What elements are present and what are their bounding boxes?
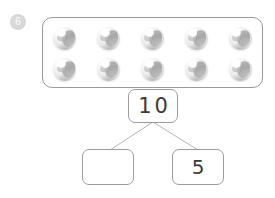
marble: [185, 58, 208, 81]
marble-highlight: [101, 29, 110, 37]
marble: [141, 58, 164, 81]
marble-highlight: [145, 29, 154, 37]
marble-tray: [42, 17, 263, 88]
number-bond-whole-value: 10: [135, 96, 171, 117]
marble: [229, 27, 252, 50]
number-bond-whole-box[interactable]: 10: [128, 89, 178, 123]
marble-shadow: [231, 73, 248, 81]
marble-shadow: [56, 42, 73, 50]
marble-shadow: [56, 73, 73, 81]
marble: [141, 27, 164, 50]
marble-shadow: [231, 42, 248, 50]
marble-shadow: [188, 42, 205, 50]
marble: [97, 27, 120, 50]
marble-shadow: [100, 73, 117, 81]
marble: [185, 27, 208, 50]
question-number-badge: 6: [10, 14, 26, 30]
marble-row-2: [43, 54, 262, 84]
marble-highlight: [101, 60, 110, 68]
marble: [53, 27, 76, 50]
marble-highlight: [145, 60, 154, 68]
marble-shadow: [100, 42, 117, 50]
marble: [53, 58, 76, 81]
number-bond-part-1-box[interactable]: [82, 149, 134, 185]
worksheet-page: 6: [0, 0, 275, 198]
marble-shadow: [144, 42, 161, 50]
marble-row-1: [43, 23, 262, 53]
marble-shadow: [144, 73, 161, 81]
marble: [229, 58, 252, 81]
marble-shadow: [188, 73, 205, 81]
number-bond-part-2-box[interactable]: 5: [172, 149, 224, 185]
number-bond-part-2-value: 5: [192, 157, 205, 177]
marble: [97, 58, 120, 81]
